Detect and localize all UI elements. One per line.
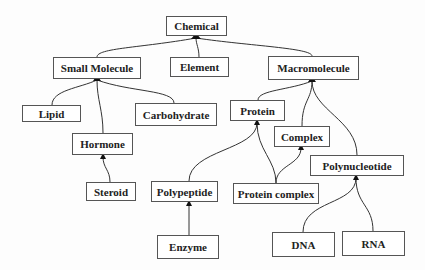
node-protein: Protein [230, 100, 285, 121]
node-lipid: Lipid [22, 105, 81, 122]
edge-rna-polynucleotide [356, 178, 373, 231]
edge-small-molecule-chemical [97, 38, 196, 57]
edge-lipid-small-molecule [52, 80, 97, 105]
diagram-canvas: Chemical Small Molecule Element Macromol… [0, 0, 425, 270]
edge-carbohydrate-small-molecule [97, 80, 174, 103]
node-dna: DNA [272, 232, 335, 257]
node-steroid: Steroid [86, 182, 136, 201]
edge-protein-macromolecule [258, 81, 312, 100]
edge-macromolecule-chemical [196, 38, 312, 56]
node-rna: RNA [342, 231, 405, 256]
edge-polypeptide-protein [189, 123, 257, 181]
edge-complex-macromolecule [302, 81, 312, 126]
node-macromolecule: Macromolecule [268, 56, 359, 80]
edges-layer [0, 0, 425, 270]
node-polynucleotide: Polynucleotide [310, 155, 404, 176]
node-small-molecule: Small Molecule [53, 57, 141, 79]
node-complex: Complex [274, 126, 330, 147]
node-carbohydrate: Carbohydrate [135, 103, 217, 126]
node-polypeptide: Polypeptide [151, 181, 218, 202]
edge-hormone-small-molecule [97, 80, 103, 133]
edge-protein-complex-complex [276, 148, 301, 183]
node-chemical: Chemical [166, 16, 227, 36]
edge-steroid-hormone [103, 157, 110, 182]
node-element: Element [170, 57, 229, 77]
node-enzyme: Enzyme [157, 235, 219, 259]
node-protein-complex: Protein complex [233, 183, 319, 204]
node-hormone: Hormone [72, 133, 133, 155]
edge-element-chemical [196, 38, 199, 57]
